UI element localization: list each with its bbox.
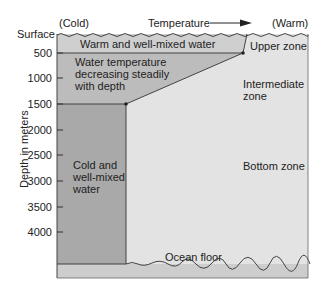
- cold-label-1: Cold and: [73, 159, 117, 171]
- cold-column-point: [124, 102, 128, 106]
- cold-label-2: well-mixed: [73, 171, 125, 183]
- thermocline-label-2: decreasing steadily: [75, 68, 169, 80]
- surface-label: Surface: [17, 28, 55, 40]
- intermediate-zone-label-1: Intermediate: [243, 78, 304, 90]
- warm-label: (Warm): [272, 17, 308, 29]
- bottom-zone-label: Bottom zone: [243, 160, 305, 172]
- ocean-floor-label: Ocean floor: [165, 251, 222, 263]
- upper-zone-point: [241, 51, 245, 55]
- thermocline-label-1: Water temperature: [75, 56, 166, 68]
- ocean-floor-strip: [57, 264, 308, 278]
- tick-label-1000: 1000: [6, 72, 52, 84]
- warm-mixed-label: Warm and well-mixed water: [80, 38, 215, 50]
- tick-label-3500: 3500: [6, 201, 52, 213]
- tick-label-500: 500: [6, 47, 52, 59]
- thermocline-label-3: with depth: [75, 80, 125, 92]
- axis-title: Depth in meters: [18, 110, 30, 188]
- tick-label-1500: 1500: [6, 98, 52, 110]
- temperature-label: Temperature: [148, 17, 210, 29]
- tick-label-4000: 4000: [6, 226, 52, 238]
- cold-label: (Cold): [59, 17, 89, 29]
- cold-label-3: water: [73, 183, 100, 195]
- intermediate-zone-label-2: zone: [243, 90, 267, 102]
- upper-zone-label: Upper zone: [250, 40, 307, 52]
- temperature-arrow-icon: [240, 20, 252, 27]
